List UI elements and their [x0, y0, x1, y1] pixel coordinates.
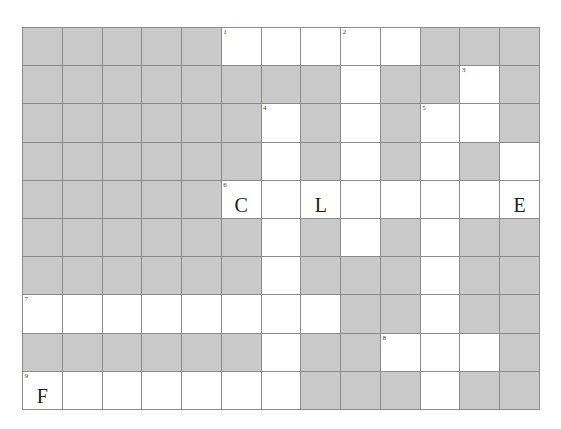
crossword-open-cell[interactable]	[381, 181, 421, 219]
crossword-block-cell	[301, 372, 341, 410]
crossword-block-cell	[222, 219, 262, 257]
crossword-open-cell[interactable]	[341, 104, 381, 142]
cell-clue-number: 6	[223, 181, 227, 190]
crossword-block-cell	[182, 66, 222, 104]
crossword-open-cell[interactable]	[182, 372, 222, 410]
crossword-block-cell	[381, 219, 421, 257]
crossword-block-cell	[381, 257, 421, 295]
crossword-open-cell[interactable]	[262, 372, 302, 410]
crossword-block-cell	[460, 143, 500, 181]
crossword-open-cell[interactable]	[421, 143, 461, 181]
crossword-open-cell[interactable]	[421, 257, 461, 295]
crossword-block-cell	[301, 104, 341, 142]
crossword-block-cell	[103, 104, 143, 142]
crossword-block-cell	[222, 334, 262, 372]
crossword-block-cell	[500, 257, 540, 295]
crossword-block-cell	[63, 104, 103, 142]
cell-letter: F	[23, 385, 62, 407]
crossword-open-cell[interactable]	[460, 104, 500, 142]
crossword-block-cell	[301, 143, 341, 181]
crossword-open-cell[interactable]	[63, 295, 103, 333]
crossword-open-cell[interactable]	[341, 181, 381, 219]
crossword-open-cell[interactable]	[421, 181, 461, 219]
crossword-block-cell	[63, 28, 103, 66]
crossword-open-cell[interactable]	[222, 372, 262, 410]
crossword-block-cell	[103, 219, 143, 257]
crossword-block-cell	[142, 334, 182, 372]
crossword-block-cell	[222, 104, 262, 142]
crossword-puzzle-page: 123456CLE789F	[0, 0, 561, 429]
crossword-open-cell[interactable]	[421, 334, 461, 372]
crossword-open-cell[interactable]	[262, 219, 302, 257]
crossword-open-cell[interactable]	[182, 295, 222, 333]
crossword-block-cell	[103, 66, 143, 104]
crossword-open-cell[interactable]	[142, 372, 182, 410]
crossword-open-cell[interactable]: 8	[381, 334, 421, 372]
crossword-block-cell	[142, 143, 182, 181]
crossword-open-cell[interactable]	[381, 28, 421, 66]
crossword-open-cell[interactable]	[301, 295, 341, 333]
crossword-open-cell[interactable]	[262, 295, 302, 333]
crossword-open-cell[interactable]	[222, 295, 262, 333]
crossword-block-cell	[63, 257, 103, 295]
crossword-block-cell	[23, 66, 63, 104]
crossword-open-cell[interactable]: 6C	[222, 181, 262, 219]
crossword-block-cell	[500, 372, 540, 410]
crossword-block-cell	[341, 295, 381, 333]
crossword-open-cell[interactable]	[421, 219, 461, 257]
crossword-open-cell[interactable]	[460, 334, 500, 372]
crossword-block-cell	[341, 257, 381, 295]
crossword-block-cell	[381, 66, 421, 104]
crossword-block-cell	[23, 28, 63, 66]
crossword-open-cell[interactable]	[341, 143, 381, 181]
crossword-open-cell[interactable]	[341, 219, 381, 257]
crossword-open-cell[interactable]: 9F	[23, 372, 63, 410]
crossword-open-cell[interactable]	[262, 28, 302, 66]
crossword-block-cell	[381, 143, 421, 181]
crossword-open-cell[interactable]	[301, 28, 341, 66]
crossword-block-cell	[222, 66, 262, 104]
crossword-open-cell[interactable]	[421, 295, 461, 333]
crossword-block-cell	[500, 219, 540, 257]
crossword-open-cell[interactable]	[341, 66, 381, 104]
crossword-open-cell[interactable]: 5	[421, 104, 461, 142]
crossword-block-cell	[103, 334, 143, 372]
crossword-block-cell	[182, 257, 222, 295]
crossword-open-cell[interactable]	[103, 295, 143, 333]
crossword-block-cell	[142, 257, 182, 295]
crossword-open-cell[interactable]: 1	[222, 28, 262, 66]
crossword-open-cell[interactable]: 2	[341, 28, 381, 66]
cell-clue-number: 4	[263, 104, 267, 113]
crossword-open-cell[interactable]: 4	[262, 104, 302, 142]
crossword-block-cell	[222, 143, 262, 181]
crossword-block-cell	[460, 257, 500, 295]
crossword-block-cell	[341, 334, 381, 372]
crossword-block-cell	[182, 219, 222, 257]
crossword-grid[interactable]: 123456CLE789F	[22, 27, 540, 410]
crossword-open-cell[interactable]	[460, 181, 500, 219]
crossword-open-cell[interactable]	[63, 372, 103, 410]
crossword-block-cell	[103, 28, 143, 66]
crossword-block-cell	[460, 372, 500, 410]
crossword-block-cell	[23, 219, 63, 257]
crossword-open-cell[interactable]: 3	[460, 66, 500, 104]
crossword-open-cell[interactable]	[500, 143, 540, 181]
crossword-open-cell[interactable]	[262, 143, 302, 181]
crossword-open-cell[interactable]: 7	[23, 295, 63, 333]
crossword-block-cell	[182, 181, 222, 219]
crossword-block-cell	[500, 66, 540, 104]
crossword-block-cell	[262, 66, 302, 104]
crossword-open-cell[interactable]: L	[301, 181, 341, 219]
crossword-open-cell[interactable]	[262, 334, 302, 372]
crossword-block-cell	[500, 28, 540, 66]
crossword-open-cell[interactable]	[142, 295, 182, 333]
crossword-block-cell	[63, 334, 103, 372]
crossword-open-cell[interactable]	[103, 372, 143, 410]
crossword-block-cell	[500, 104, 540, 142]
crossword-open-cell[interactable]	[421, 372, 461, 410]
crossword-block-cell	[301, 257, 341, 295]
crossword-open-cell[interactable]	[262, 181, 302, 219]
crossword-block-cell	[301, 334, 341, 372]
crossword-open-cell[interactable]: E	[500, 181, 540, 219]
crossword-open-cell[interactable]	[262, 257, 302, 295]
